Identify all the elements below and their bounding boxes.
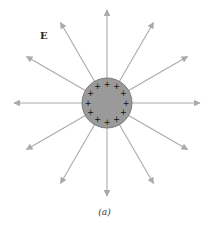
plus-charge-icon: + bbox=[120, 108, 127, 117]
plus-charge-icon: + bbox=[104, 118, 111, 127]
field-line-arrow bbox=[26, 116, 85, 150]
field-line-arrow bbox=[61, 125, 95, 184]
plus-charge-icon: + bbox=[87, 89, 94, 98]
field-line-arrow bbox=[120, 125, 154, 184]
figure-caption: (a) bbox=[0, 207, 209, 217]
plus-charge-icon: + bbox=[94, 115, 101, 124]
field-lines-svg: ++++++++++++ bbox=[0, 0, 209, 229]
plus-charge-icon: + bbox=[87, 108, 94, 117]
plus-charge-icon: + bbox=[120, 89, 127, 98]
plus-charge-icon: + bbox=[113, 82, 120, 91]
plus-charge-icon: + bbox=[94, 82, 101, 91]
plus-charge-icon: + bbox=[104, 80, 111, 89]
plus-charge-icon: + bbox=[113, 115, 120, 124]
plus-charge-icon: + bbox=[123, 99, 130, 108]
field-label-E: E bbox=[40, 30, 48, 41]
field-line-arrow bbox=[129, 116, 188, 150]
field-line-arrow bbox=[26, 57, 85, 91]
field-line-arrow bbox=[120, 22, 154, 81]
electric-field-diagram: ++++++++++++ E (a) bbox=[0, 0, 209, 229]
field-line-arrow bbox=[129, 57, 188, 91]
field-line-arrow bbox=[61, 22, 95, 81]
plus-charge-icon: + bbox=[85, 99, 92, 108]
